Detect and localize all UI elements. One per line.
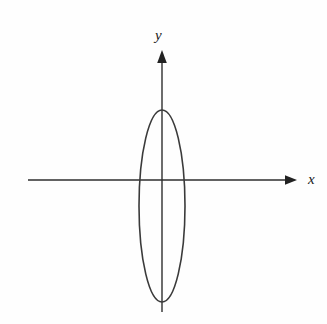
y-axis-label: y bbox=[155, 28, 162, 43]
x-axis-arrowhead-icon bbox=[285, 175, 297, 185]
y-axis-arrowhead-icon bbox=[157, 50, 167, 63]
ellipse-axes-diagram bbox=[0, 0, 327, 324]
figure-container: x y bbox=[0, 0, 327, 324]
x-axis-label: x bbox=[308, 172, 315, 187]
